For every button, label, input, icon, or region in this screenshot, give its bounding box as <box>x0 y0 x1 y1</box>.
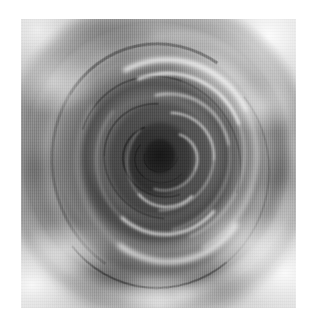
film-grain-texture <box>21 19 296 308</box>
image-plate <box>21 19 296 308</box>
highlight-mid-ring-arc <box>69 67 257 258</box>
highlight-rim-outer-sheen <box>21 19 296 308</box>
base-luminance-layer <box>21 19 296 308</box>
crease-spiral-a <box>110 112 213 210</box>
highlight-lower-ring-arc <box>60 51 270 278</box>
outer-rim-layer <box>21 19 296 308</box>
ring-outer-rim <box>21 19 296 308</box>
crease-rim-outer <box>28 22 294 306</box>
highlight-spiral-core <box>124 121 207 201</box>
ring-inner-fold <box>109 103 211 216</box>
highlight-lower-inner-arc <box>124 116 208 209</box>
highlight-upper-ring-arc-2 <box>53 45 272 270</box>
ring-mid-fold <box>82 77 233 242</box>
highlight-lower-ring-arc-2 <box>90 81 238 241</box>
ring-core <box>145 139 175 174</box>
crease-rim-bottom <box>34 43 281 300</box>
background-undulation <box>21 19 296 308</box>
crease-mid-fold <box>49 48 270 275</box>
highlight-upper-ring-arc <box>41 32 284 285</box>
crease-inner-fold <box>79 78 244 243</box>
plate-vignette <box>21 19 296 308</box>
scanline-texture <box>21 19 296 308</box>
ring-rim-inner-wall <box>54 45 263 276</box>
core-shadow-layer <box>21 19 296 308</box>
crease-spiral-c <box>137 132 185 179</box>
crease-spiral-b <box>131 132 190 186</box>
page-root <box>0 0 317 325</box>
highlight-inner-ring-arc <box>94 91 236 232</box>
shadow-undulation <box>21 19 296 308</box>
ring-spiral-fold <box>128 123 191 195</box>
